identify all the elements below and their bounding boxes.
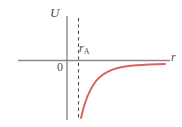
y-axis-label: U	[50, 6, 59, 19]
origin-label: 0	[57, 61, 63, 73]
asymptote-label-subscript: A	[84, 47, 90, 56]
plot-canvas	[0, 0, 182, 127]
potential-energy-curve	[81, 64, 165, 118]
x-axis-label: r	[171, 51, 176, 63]
asymptote-label: rA	[79, 42, 89, 56]
potential-energy-figure: U r 0 rA	[0, 0, 182, 127]
